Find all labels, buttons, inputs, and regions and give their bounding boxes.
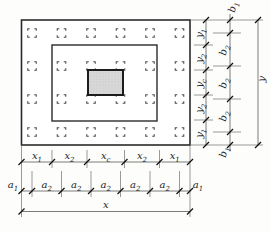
dim-label-subscript: 2 (200, 103, 209, 109)
dim-label-base: x (103, 199, 109, 210)
dim-label-x_chain-4: x1 (170, 151, 180, 161)
dim-label-subscript: c (200, 78, 209, 83)
dim-label-subscript: 2 (48, 185, 52, 193)
dim-label-y_chain-0: y1 (194, 27, 206, 39)
dim-label-subscript: 1 (175, 156, 179, 164)
dim-label-y_chain-2: yc (194, 77, 206, 88)
dim-label-subscript: 2 (224, 77, 233, 83)
dim-label-subscript: 2 (166, 185, 170, 193)
dim-label-x_chain-1: x2 (64, 151, 74, 161)
dim-label-b_chain-2: b2 (217, 76, 229, 89)
dim-label-subscript: 1 (224, 147, 233, 153)
dim-label-a_chain-2: a2 (71, 180, 81, 190)
dim-label-a_chain-4: a2 (130, 180, 140, 190)
dim-label-b_chain-1: b2 (217, 43, 229, 56)
dim-label-subscript: 1 (200, 128, 209, 134)
dim-label-x_chain-0: x1 (32, 151, 42, 161)
dim-label-x_chain-2: xc (101, 151, 111, 161)
dim-label-x_chain-3: x2 (137, 151, 147, 161)
dim-label-y_chain-3: y2 (194, 102, 206, 114)
dim-label-subscript: 1 (14, 185, 18, 193)
dim-label-subscript: 1 (38, 156, 42, 164)
figure-canvas: x1x2xcx2x1a1a2a2a2a2a2a1xy1y2ycy2y1b1b2b… (0, 0, 271, 232)
dim-label-subscript: 2 (70, 156, 74, 164)
dim-label-subscript: 2 (136, 185, 140, 193)
dim-label-subscript: 2 (107, 185, 111, 193)
dim-label-a_chain-6: a1 (193, 180, 203, 190)
dim-label-subscript: 1 (233, 2, 242, 8)
dim-label-subscript: 2 (200, 53, 209, 59)
dim-label-a_chain-1: a2 (42, 180, 52, 190)
dim-label-b_chain-3: b2 (217, 109, 229, 122)
dim-label-subscript: 2 (224, 44, 233, 50)
dim-label-y_chain-4: y1 (194, 127, 206, 139)
dim-label-a_chain-5: a2 (160, 180, 170, 190)
dim-label-a_chain-3: a2 (101, 180, 111, 190)
dim-label-subscript: c (107, 156, 111, 164)
dim-label-subscript: 1 (199, 185, 203, 193)
dim-label-subscript: 2 (224, 110, 233, 116)
dim-label-subscript: 2 (77, 185, 81, 193)
dim-label-subscript: 2 (143, 156, 147, 164)
dim-label-x_total: x (103, 200, 109, 210)
dim-label-a_chain-0: a1 (8, 180, 18, 190)
dim-label-y_chain-1: y2 (194, 52, 206, 64)
pedestal (88, 70, 123, 95)
dim-label-subscript: 1 (200, 28, 209, 34)
